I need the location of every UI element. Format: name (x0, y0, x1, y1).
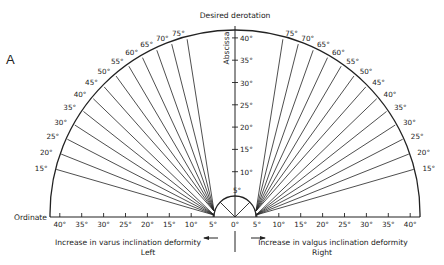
ordinate-tick-label: 5° (253, 220, 261, 229)
arc-angle-label: 70° (301, 34, 314, 43)
arc-angle-label: 65° (317, 40, 330, 49)
arc-angle-label: 55° (346, 57, 359, 66)
arc-angle-label: 45° (85, 78, 98, 87)
arc-angle-label: 20° (40, 148, 53, 157)
abscissa-tick-label: 25° (240, 101, 253, 110)
abscissa-tick-label: 30° (240, 79, 253, 88)
arc-angle-label: 60° (332, 48, 345, 57)
arc-angle-label: 55° (111, 57, 124, 66)
ordinate-tick-label: 30° (97, 220, 110, 229)
left-caption: Increase in varus inclination deformity (55, 238, 201, 247)
arc-angle-label: 50° (98, 67, 111, 76)
ordinate-tick-label: 10° (185, 220, 198, 229)
ordinate-tick-label: 25° (338, 220, 351, 229)
abscissa-label: Abscissa (222, 32, 231, 65)
left-arrow-icon (203, 236, 218, 240)
arc-angle-label: 45° (372, 78, 385, 87)
abscissa-tick-label: 10° (240, 168, 253, 177)
ordinate-tick-label: 15° (163, 220, 176, 229)
ordinate-tick-label: 20° (316, 220, 329, 229)
arc-angle-label: 15° (422, 164, 435, 173)
arc-angle-label: 30° (54, 118, 67, 127)
arc-angle-label: 75° (172, 29, 185, 38)
abscissa-tick-label: 35° (240, 56, 253, 65)
abscissa-tick-label: 40° (240, 34, 253, 43)
arc-angle-label: 75° (285, 29, 298, 38)
abscissa-tick-label: 15° (240, 145, 253, 154)
arc-angle-label: 25° (46, 132, 59, 141)
ordinate-tick-label: 20° (141, 220, 154, 229)
ordinate-tick-label: 35° (382, 220, 395, 229)
top-title: Desired derotation (200, 11, 271, 20)
arc-angle-label: 65° (140, 40, 153, 49)
ordinate-tick-label: 10° (272, 220, 285, 229)
abscissa-tick-label: 20° (240, 123, 253, 132)
right-side-label: Right (312, 248, 332, 257)
arc-angle-label: 40° (384, 90, 397, 99)
ordinate-tick-label: 5° (209, 220, 217, 229)
arc-angle-label: 35° (394, 103, 407, 112)
arc-angle-label: 70° (156, 34, 169, 43)
arc-angle-label: 15° (35, 164, 48, 173)
left-side-label: Left (141, 248, 155, 257)
ordinate-tick-label: 25° (119, 220, 132, 229)
ordinate-tick-label: 30° (360, 220, 373, 229)
ordinate-tick-label: 40° (404, 220, 417, 229)
arc-angle-label: 25° (411, 132, 424, 141)
ordinate-tick-label: 40° (53, 220, 66, 229)
right-caption: Increase in valgus inclination deformity (258, 238, 408, 247)
arc-angle-label: 50° (360, 67, 373, 76)
abscissa-tick-label: 5° (233, 186, 241, 195)
derotation-protractor-diagram: 5°10°15°20°25°30°35°40° 40°35°30°25°20°1… (0, 0, 444, 265)
ordinate-label: Ordinate (14, 213, 47, 222)
arc-angle-label: 30° (403, 118, 416, 127)
arc-angle-label: 20° (417, 148, 430, 157)
arc-angle-label: 60° (125, 48, 138, 57)
arc-angle-label: 35° (63, 103, 76, 112)
panel-label: A (6, 52, 15, 67)
arc-angle-label: 40° (74, 90, 87, 99)
ordinate-tick-label: 35° (75, 220, 88, 229)
ordinate-tick-label: 15° (294, 220, 307, 229)
center-tick-label: 0° (231, 220, 239, 229)
